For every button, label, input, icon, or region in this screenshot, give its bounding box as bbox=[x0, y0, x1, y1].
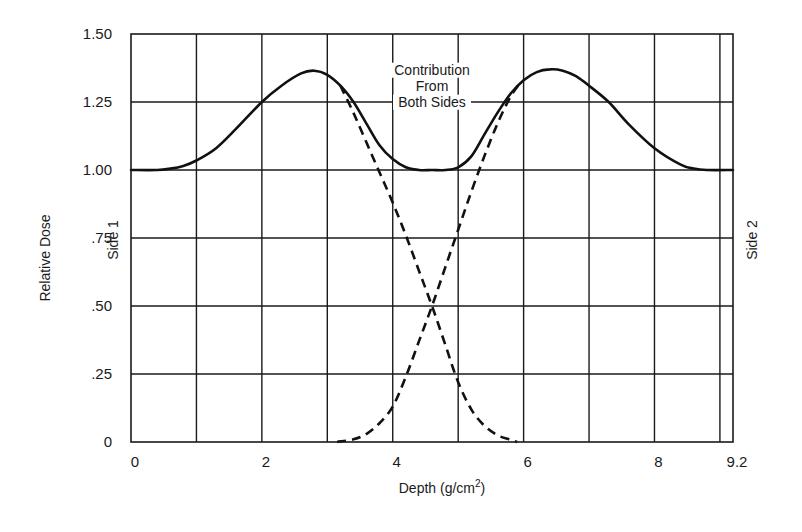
y-tick-label: 0 bbox=[104, 433, 112, 450]
side-2-dose-line bbox=[337, 83, 520, 442]
x-tick-label: 2 bbox=[262, 453, 270, 470]
x-tick-labels: 024689.2 bbox=[131, 453, 748, 470]
x-tick-label: 4 bbox=[393, 453, 401, 470]
annotation-line-3: Both Sides bbox=[398, 94, 466, 110]
x-axis-label-text: Depth (g/cm bbox=[399, 480, 475, 496]
series-layer bbox=[131, 69, 733, 442]
side-2-label: Side 2 bbox=[744, 220, 760, 260]
annotation-line-2: From bbox=[416, 78, 449, 94]
y-axis-label: Relative Dose bbox=[37, 214, 53, 301]
y-tick-label: 1.50 bbox=[83, 25, 112, 42]
y-tick-label: 1.25 bbox=[83, 93, 112, 110]
y-tick-label: .25 bbox=[91, 365, 112, 382]
x-axis-label-close: ) bbox=[481, 480, 486, 496]
side-1-label: Side 1 bbox=[105, 220, 121, 260]
y-tick-label: .50 bbox=[91, 297, 112, 314]
annotation-layer: ContributionFromBoth Sides bbox=[386, 62, 479, 110]
annotation-line-1: Contribution bbox=[394, 62, 470, 78]
x-tick-label: 8 bbox=[654, 453, 662, 470]
x-tick-label: 9.2 bbox=[727, 453, 748, 470]
dose-depth-chart: ContributionFromBoth Sides 0.25.50.751.0… bbox=[0, 0, 802, 532]
y-tick-label: 1.00 bbox=[83, 161, 112, 178]
x-axis-label: Depth (g/cm2) bbox=[399, 478, 485, 496]
x-tick-label: 6 bbox=[523, 453, 531, 470]
x-tick-label: 0 bbox=[131, 453, 139, 470]
